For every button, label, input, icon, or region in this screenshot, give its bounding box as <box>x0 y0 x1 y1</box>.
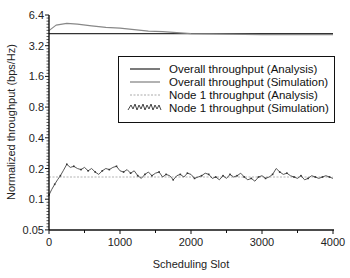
x-tick-label: 1000 <box>108 236 132 248</box>
data-point-marker <box>109 169 111 171</box>
y-tick-label: 0.1 <box>29 193 44 205</box>
y-tick-label: 0.05 <box>23 224 44 236</box>
data-point-marker <box>116 166 118 168</box>
data-point-marker <box>194 178 196 180</box>
y-tick-label: 1.6 <box>29 70 44 82</box>
x-tick-label: 3000 <box>250 236 274 248</box>
y-tick-label: 0.8 <box>29 101 44 113</box>
data-point-marker <box>300 175 302 177</box>
data-point-marker <box>293 176 295 178</box>
data-point-marker <box>236 175 238 177</box>
data-point-marker <box>229 174 231 176</box>
data-point-marker <box>137 175 139 177</box>
data-point-marker <box>60 175 62 177</box>
data-point-marker <box>251 178 253 180</box>
data-point-marker <box>258 176 260 178</box>
data-point-marker <box>314 176 316 178</box>
data-point-marker <box>279 171 281 173</box>
series-node1-simulation <box>49 164 333 195</box>
data-point-marker <box>144 174 146 176</box>
legend-label: Node 1 throughput (Analysis) <box>169 89 318 101</box>
data-point-marker <box>54 184 56 186</box>
y-axis-title: Normalized throughput (bps/Hz) <box>5 44 17 200</box>
data-point-marker <box>66 164 68 166</box>
data-point-marker <box>201 175 203 177</box>
data-point-marker <box>94 171 96 173</box>
y-tick-label: 6.4 <box>29 9 44 21</box>
data-point-marker <box>307 178 309 180</box>
data-point-marker <box>286 172 288 174</box>
y-tick-label: 3.2 <box>29 40 44 52</box>
data-point-marker <box>87 170 89 172</box>
x-tick-label: 0 <box>46 236 52 248</box>
y-tick-label: 0.2 <box>29 163 44 175</box>
data-point-marker <box>102 170 104 172</box>
data-point-marker <box>172 179 174 181</box>
x-tick-label: 2000 <box>179 236 203 248</box>
x-tick-label: 4000 <box>321 236 345 248</box>
legend: Overall throughput (Analysis) Overall th… <box>119 57 335 123</box>
legend-label: Overall throughput (Analysis) <box>169 63 317 75</box>
data-point-marker <box>151 175 153 177</box>
data-point-marker <box>272 174 274 176</box>
data-point-marker <box>265 178 267 180</box>
series-overall-simulation <box>49 23 333 34</box>
data-point-marker <box>130 172 132 174</box>
data-point-marker <box>208 174 210 176</box>
y-tick-label: 0.4 <box>29 132 44 144</box>
throughput-chart: 6.4 3.2 1.6 0.8 0.4 0.2 0.1 0.05 0 1000 … <box>0 0 350 278</box>
data-point-marker <box>243 176 245 178</box>
data-point-marker <box>322 176 324 178</box>
data-point-marker <box>165 174 167 176</box>
legend-label: Node 1 throughput (Simulation) <box>169 102 329 114</box>
data-point-marker <box>158 171 160 173</box>
data-point-marker <box>187 172 189 174</box>
data-point-marker <box>180 174 182 176</box>
data-point-marker <box>73 166 75 168</box>
legend-label: Overall throughput (Simulation) <box>169 76 328 88</box>
data-point-marker <box>329 176 331 178</box>
data-point-marker <box>222 175 224 177</box>
x-axis-title: Scheduling Slot <box>153 258 229 270</box>
data-point-marker <box>215 176 217 178</box>
data-point-marker <box>80 169 82 171</box>
data-point-marker <box>123 171 125 173</box>
